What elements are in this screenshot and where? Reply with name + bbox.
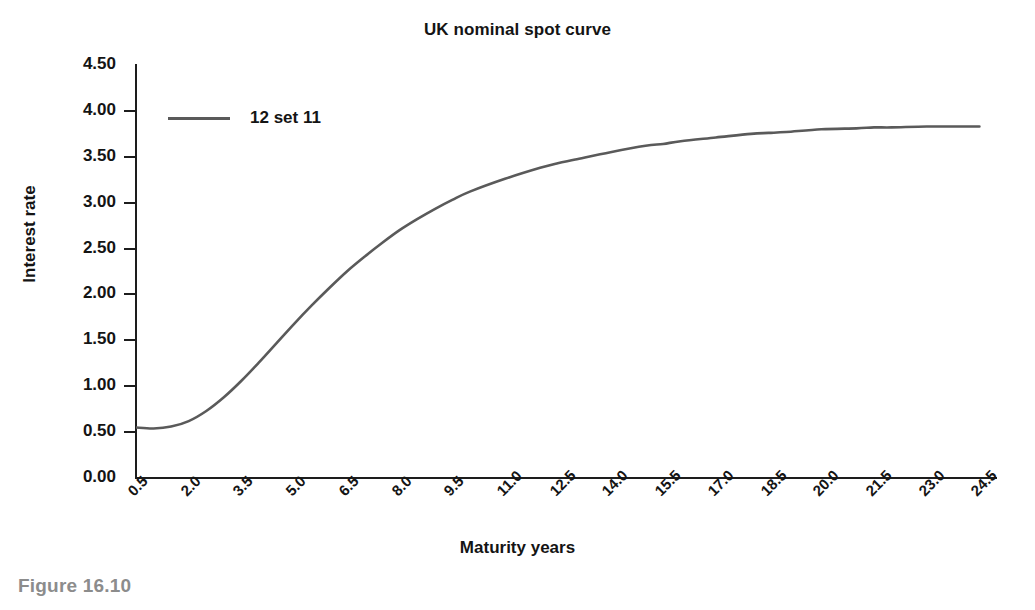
y-tick-label: 4.00: [48, 101, 116, 118]
y-tick-mark: [124, 248, 136, 250]
y-tick-label: 0.50: [48, 422, 116, 439]
y-tick-mark: [124, 431, 136, 433]
y-tick-mark: [124, 339, 136, 341]
y-tick-label: 1.50: [48, 330, 116, 347]
y-tick-mark: [124, 110, 136, 112]
y-tick-label: 0.00: [48, 468, 116, 485]
y-tick-mark: [124, 202, 136, 204]
y-tick-mark: [124, 293, 136, 295]
chart-legend: 12 set 11: [168, 108, 321, 128]
y-tick-label: 3.00: [48, 193, 116, 210]
legend-swatch-12-set-11: [168, 117, 230, 120]
y-tick-label: 3.50: [48, 147, 116, 164]
legend-label-12-set-11: 12 set 11: [250, 108, 321, 128]
x-axis-title: Maturity years: [0, 538, 1035, 558]
y-axis-title: Interest rate: [20, 104, 40, 364]
y-tick-label: 4.50: [48, 55, 116, 72]
y-tick-mark: [124, 385, 136, 387]
y-tick-label: 2.50: [48, 239, 116, 256]
chart-title: UK nominal spot curve: [0, 20, 1035, 40]
y-tick-label: 1.00: [48, 376, 116, 393]
figure-caption: Figure 16.10: [18, 575, 131, 597]
figure-page: UK nominal spot curve Interest rate 0.00…: [0, 0, 1035, 610]
y-tick-label: 2.00: [48, 284, 116, 301]
series-line-12-set-11: [136, 126, 979, 428]
y-tick-mark: [124, 156, 136, 158]
